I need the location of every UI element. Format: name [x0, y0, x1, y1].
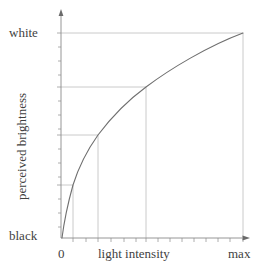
guide-horizontals: [61, 33, 243, 185]
x-axis-title: light intensity: [98, 247, 170, 260]
x-axis-arrow-icon: [243, 235, 251, 240]
y-axis-tick-label-black: black: [9, 229, 37, 242]
y-axis-tick-label-white: white: [9, 26, 38, 39]
brightness-response-chart: white black 0 max light intensity percei…: [0, 0, 273, 273]
guide-droplines: [73, 33, 243, 238]
plot-canvas: [0, 0, 273, 273]
y-axis-minor-ticks: [57, 33, 61, 227]
x-axis-tick-label-max: max: [228, 247, 250, 260]
x-axis-tick-label-zero: 0: [58, 247, 65, 260]
response-curve: [62, 33, 243, 238]
y-axis-arrow-icon: [59, 9, 64, 16]
y-axis-title: perceived brightness: [15, 82, 28, 212]
x-axis-minor-ticks: [73, 238, 243, 242]
